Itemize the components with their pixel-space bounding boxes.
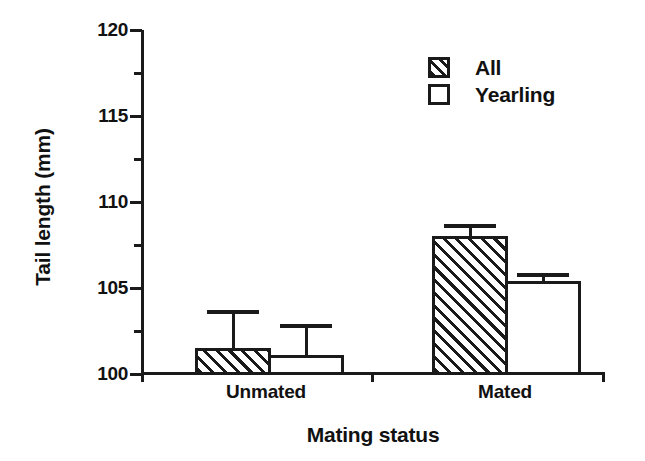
x-axis-title: Mating status <box>141 423 605 447</box>
error-bar-stem-unmated-all <box>232 310 235 348</box>
bar-unmated-yearling <box>268 355 344 375</box>
legend-item-all: All <box>428 55 555 80</box>
error-bar-cap-unmated-yearling <box>280 324 332 328</box>
x-axis-tick-start <box>141 372 144 382</box>
legend-label-all: All <box>475 57 501 78</box>
y-axis-tick-minor <box>134 330 142 333</box>
y-axis-tick-label: 120 <box>84 20 128 39</box>
legend-swatch-yearling-icon <box>428 84 450 105</box>
y-axis-tick-minor <box>134 72 142 75</box>
y-axis-tick-major <box>130 29 142 32</box>
y-axis-tick-minor <box>134 158 142 161</box>
bar-mated-all <box>432 236 508 375</box>
y-axis-tick-major <box>130 287 142 290</box>
y-axis-tick-label: 105 <box>84 278 128 297</box>
y-axis-tick-label-text: 120 <box>84 20 128 39</box>
legend-label-yearling: Yearling <box>475 84 555 105</box>
y-axis-tick-label: 110 <box>84 192 128 211</box>
y-axis-tick-label-text: 105 <box>84 278 128 297</box>
bar-mated-yearling <box>505 281 581 375</box>
y-axis-tick-label: 115 <box>84 106 128 125</box>
legend-swatch-all-icon <box>428 57 450 78</box>
error-bar-stem-unmated-yearling <box>305 324 308 355</box>
x-category-label-unmated: Unmated <box>186 382 346 401</box>
error-bar-cap-mated-yearling <box>517 273 569 277</box>
legend: All Yearling <box>428 55 555 109</box>
y-axis-tick-label-text: 110 <box>84 192 128 211</box>
x-category-label-mated: Mated <box>425 382 585 401</box>
bar-chart-figure: Tail length (mm) 100105110115120 Unmated… <box>0 0 645 461</box>
x-axis-tick-end <box>602 372 605 382</box>
error-bar-cap-mated-all <box>444 224 496 228</box>
y-axis-tick-major <box>130 201 142 204</box>
y-axis-tick-label-text: 115 <box>84 106 128 125</box>
y-axis-tick-label-text: 100 <box>84 364 128 383</box>
y-axis-tick-major <box>130 115 142 118</box>
y-axis-tick-label: 100 <box>84 364 128 383</box>
legend-item-yearling: Yearling <box>428 82 555 107</box>
error-bar-cap-unmated-all <box>207 310 259 314</box>
y-axis-title: Tail length (mm) <box>31 102 55 312</box>
y-axis-tick-minor <box>134 244 142 247</box>
x-axis-tick-middle <box>371 372 374 382</box>
bar-unmated-all <box>195 348 271 375</box>
